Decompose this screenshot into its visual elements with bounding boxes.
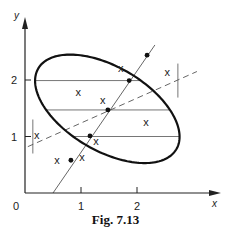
y-tick-label: 1 (11, 131, 17, 143)
solid-regression-line (53, 45, 155, 193)
x-axis-label: x (211, 198, 218, 209)
x-tick-label: 2 (134, 200, 140, 212)
dashed-regression-line (28, 72, 197, 147)
origin-label: 0 (13, 200, 19, 212)
data-point-x-mark: x (164, 66, 170, 78)
data-point-x-mark: x (93, 135, 99, 147)
chord-midpoint-dot (88, 134, 93, 139)
y-axis-arrow-icon (22, 17, 28, 29)
data-point-x-mark: x (79, 151, 85, 163)
x-axis-arrow-icon (209, 190, 221, 196)
data-point-x-mark: x (34, 129, 40, 141)
data-point-x-mark: x (118, 62, 124, 74)
chord-midpoint-dot (145, 53, 150, 58)
chord-midpoint-dot (69, 158, 74, 163)
chord-midpoint-dot (127, 78, 132, 83)
data-point-x-mark: x (54, 154, 60, 166)
data-point-x-mark: x (75, 86, 81, 98)
data-point-x-mark: x (100, 94, 106, 106)
data-point-x-mark: x (143, 116, 149, 128)
x-tick-label: 1 (78, 200, 84, 212)
y-tick-label: 2 (11, 74, 17, 86)
y-axis-label: y (13, 10, 20, 21)
figure-canvas: xxxxxxxxx y x 0 1212 (0, 0, 231, 236)
chord-midpoint-dot (105, 108, 110, 113)
plot-area: xxxxxxxxx (28, 45, 197, 193)
figure-caption: Fig. 7.13 (0, 212, 231, 228)
